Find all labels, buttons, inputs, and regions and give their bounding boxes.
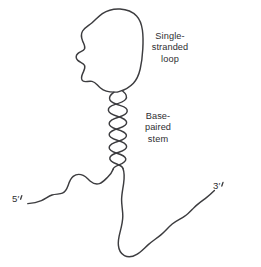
five-prime-tick-mark <box>21 196 22 200</box>
single-stranded-loop-path <box>76 9 143 92</box>
five-prime-tail-path <box>28 169 113 203</box>
five-prime-end-label: 5′ <box>12 194 20 204</box>
base-paired-stem-label: Base- paired stem <box>130 111 186 145</box>
three-prime-end-label: 3′ <box>213 181 221 191</box>
three-prime-tick-mark <box>222 182 223 186</box>
rna-structure-figure: Single- stranded loop Base- paired stem … <box>0 0 261 267</box>
three-prime-tail-path <box>118 168 214 256</box>
single-stranded-loop-label: Single- stranded loop <box>139 31 201 65</box>
